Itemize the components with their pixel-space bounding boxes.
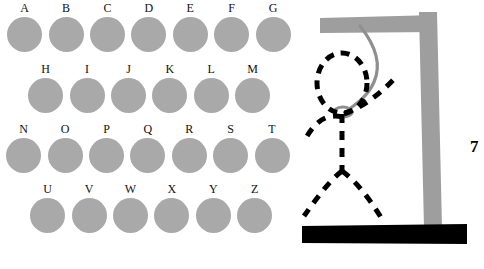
gallows-post — [419, 12, 442, 228]
letter-key-q[interactable]: Q — [127, 123, 168, 173]
letter-disc-z[interactable] — [237, 198, 272, 233]
letter-key-w[interactable]: W — [110, 183, 151, 233]
letter-label-v: V — [85, 183, 94, 197]
hangman-left-arm — [305, 116, 342, 140]
letter-label-a: A — [20, 2, 29, 16]
letter-label-z: Z — [251, 183, 258, 197]
letter-key-s[interactable]: S — [210, 123, 251, 173]
letter-label-h: H — [41, 63, 50, 77]
letter-disc-d[interactable] — [131, 17, 166, 52]
letter-disc-f[interactable] — [214, 17, 249, 52]
letter-disc-o[interactable] — [48, 138, 83, 173]
letter-key-z[interactable]: Z — [234, 183, 275, 233]
letter-disc-k[interactable] — [152, 78, 187, 113]
letter-label-e: E — [187, 2, 194, 16]
wrong-guess-counter: 7 — [470, 138, 479, 155]
letter-disc-x[interactable] — [154, 198, 189, 233]
gallows-base — [302, 224, 467, 244]
letter-row-1: A B C D E F G — [4, 2, 294, 52]
letter-label-r: R — [185, 123, 193, 137]
letter-label-k: K — [166, 63, 175, 77]
letter-key-u[interactable]: U — [27, 183, 68, 233]
letter-key-f[interactable]: F — [211, 2, 252, 52]
letter-disc-b[interactable] — [49, 17, 84, 52]
letter-label-b: B — [62, 2, 70, 16]
letter-label-n: N — [19, 123, 28, 137]
letter-label-f: F — [228, 2, 235, 16]
letter-disc-g[interactable] — [256, 17, 291, 52]
letter-key-b[interactable]: B — [45, 2, 86, 52]
letter-row-3: N O P Q R S T — [3, 123, 293, 173]
letter-key-a[interactable]: A — [4, 2, 45, 52]
letter-key-k[interactable]: K — [149, 63, 190, 113]
letter-key-l[interactable]: L — [191, 63, 232, 113]
letter-key-y[interactable]: Y — [193, 183, 234, 233]
letter-label-x: X — [168, 183, 177, 197]
letter-disc-c[interactable] — [90, 17, 125, 52]
letter-disc-j[interactable] — [111, 78, 146, 113]
letter-key-c[interactable]: C — [87, 2, 128, 52]
letter-label-s: S — [227, 123, 234, 137]
letter-disc-v[interactable] — [72, 198, 107, 233]
letter-key-n[interactable]: N — [3, 123, 44, 173]
letter-key-e[interactable]: E — [170, 2, 211, 52]
letter-disc-a[interactable] — [7, 17, 42, 52]
letter-label-c: C — [103, 2, 111, 16]
hangman-left-leg — [304, 171, 342, 216]
letter-disc-m[interactable] — [235, 78, 270, 113]
letter-disc-r[interactable] — [172, 138, 207, 173]
letter-label-u: U — [43, 183, 52, 197]
letter-label-d: D — [145, 2, 154, 16]
letter-disc-n[interactable] — [6, 138, 41, 173]
letter-label-t: T — [268, 123, 275, 137]
hangman-right-leg — [342, 171, 382, 219]
letter-key-v[interactable]: V — [68, 183, 109, 233]
letter-disc-y[interactable] — [196, 198, 231, 233]
gallows-illustration — [296, 0, 484, 269]
letter-label-p: P — [103, 123, 110, 137]
letter-row-4: U V W X Y Z — [27, 183, 275, 233]
gallows-rope — [348, 26, 378, 110]
letter-key-j[interactable]: J — [108, 63, 149, 113]
letter-disc-u[interactable] — [30, 198, 65, 233]
letter-disc-q[interactable] — [130, 138, 165, 173]
letter-key-m[interactable]: M — [232, 63, 273, 113]
letter-key-d[interactable]: D — [128, 2, 169, 52]
letter-disc-h[interactable] — [28, 78, 63, 113]
letter-label-y: Y — [209, 183, 218, 197]
letter-key-x[interactable]: X — [151, 183, 192, 233]
letter-key-t[interactable]: T — [251, 123, 292, 173]
letter-label-w: W — [125, 183, 136, 197]
letter-label-i: I — [85, 63, 89, 77]
letter-key-h[interactable]: H — [25, 63, 66, 113]
letter-board: A B C D E F G — [0, 0, 302, 243]
letter-key-r[interactable]: R — [169, 123, 210, 173]
letter-row-2: H I J K L M — [25, 63, 273, 113]
hangman-game-screen: A B C D E F G — [0, 0, 484, 269]
letter-disc-t[interactable] — [255, 138, 290, 173]
letter-label-g: G — [269, 2, 278, 16]
letter-label-q: Q — [144, 123, 153, 137]
letter-disc-e[interactable] — [173, 17, 208, 52]
letter-disc-i[interactable] — [70, 78, 105, 113]
letter-disc-l[interactable] — [194, 78, 229, 113]
gallows-beam — [320, 15, 437, 33]
letter-label-l: L — [208, 63, 215, 77]
letter-label-j: J — [126, 63, 131, 77]
letter-label-m: M — [247, 63, 258, 77]
letter-label-o: O — [61, 123, 70, 137]
letter-key-i[interactable]: I — [66, 63, 107, 113]
letter-disc-w[interactable] — [113, 198, 148, 233]
letter-key-o[interactable]: O — [44, 123, 85, 173]
letter-disc-p[interactable] — [89, 138, 124, 173]
letter-key-p[interactable]: P — [86, 123, 127, 173]
letter-disc-s[interactable] — [213, 138, 248, 173]
letter-key-g[interactable]: G — [252, 2, 293, 52]
